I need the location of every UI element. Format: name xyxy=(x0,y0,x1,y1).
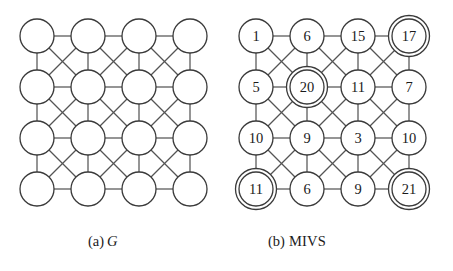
node-weight-label: 5 xyxy=(252,79,259,95)
graph-node[interactable]: 11 xyxy=(341,70,375,104)
caption-row: (a)G (b)MIVS xyxy=(0,220,453,271)
node-circle xyxy=(71,19,105,53)
node-weight-label: 20 xyxy=(300,79,315,95)
node-weight-label: 6 xyxy=(303,28,310,44)
edge-layer xyxy=(37,36,190,189)
graph-node[interactable] xyxy=(173,19,207,53)
graph-node[interactable]: 6 xyxy=(290,172,324,206)
node-weight-label: 21 xyxy=(402,181,417,197)
caption-a-prefix: (a) xyxy=(88,233,104,249)
graph-node[interactable] xyxy=(71,172,105,206)
node-circle xyxy=(173,70,207,104)
graph-node[interactable] xyxy=(20,121,54,155)
graph-node[interactable] xyxy=(122,172,156,206)
node-circle xyxy=(20,19,54,53)
graph-node[interactable] xyxy=(122,70,156,104)
graph-node-selected[interactable]: 17 xyxy=(389,16,430,57)
graph-node[interactable] xyxy=(173,121,207,155)
node-circle xyxy=(71,172,105,206)
node-circle xyxy=(20,121,54,155)
graph-node-selected[interactable]: 11 xyxy=(236,169,277,210)
graph-node[interactable]: 9 xyxy=(290,121,324,155)
graph-node[interactable]: 3 xyxy=(341,121,375,155)
node-weight-label: 7 xyxy=(405,79,412,95)
node-weight-label: 10 xyxy=(249,130,264,146)
panel-graph-mivs: 161517520117109310116921 xyxy=(226,0,453,220)
node-weight-label: 9 xyxy=(303,130,310,146)
graph-node[interactable] xyxy=(71,121,105,155)
caption-panel-a: (a)G xyxy=(88,232,118,250)
graph-node[interactable] xyxy=(122,121,156,155)
graph-node[interactable] xyxy=(71,19,105,53)
graph-node[interactable]: 10 xyxy=(392,121,426,155)
graph-node[interactable] xyxy=(20,19,54,53)
graph-mivs-svg: 161517520117109310116921 xyxy=(226,0,453,220)
caption-b-prefix: (b) xyxy=(268,233,285,249)
node-circle xyxy=(122,70,156,104)
caption-panel-b: (b)MIVS xyxy=(268,232,326,250)
node-circle xyxy=(122,172,156,206)
node-weight-label: 10 xyxy=(402,130,417,146)
panel-graph-g xyxy=(0,0,226,220)
caption-a-label: G xyxy=(104,233,117,249)
node-circle xyxy=(122,121,156,155)
graph-node[interactable] xyxy=(173,70,207,104)
node-circle xyxy=(71,121,105,155)
node-weight-label: 11 xyxy=(351,79,365,95)
graph-node-selected[interactable]: 20 xyxy=(287,67,328,108)
graph-node[interactable]: 6 xyxy=(290,19,324,53)
graph-g-svg xyxy=(0,0,226,220)
graph-node[interactable]: 10 xyxy=(239,121,273,155)
graph-node[interactable]: 1 xyxy=(239,19,273,53)
graph-node[interactable] xyxy=(20,70,54,104)
node-weight-label: 9 xyxy=(354,181,361,197)
graph-node[interactable] xyxy=(173,172,207,206)
graph-node-selected[interactable]: 21 xyxy=(389,169,430,210)
node-circle xyxy=(71,70,105,104)
graph-node[interactable]: 7 xyxy=(392,70,426,104)
figure-container: 161517520117109310116921 (a)G (b)MIVS xyxy=(0,0,453,271)
graph-node[interactable]: 9 xyxy=(341,172,375,206)
graph-node[interactable]: 15 xyxy=(341,19,375,53)
edge-layer xyxy=(256,36,409,189)
graph-node[interactable] xyxy=(20,172,54,206)
node-circle xyxy=(173,19,207,53)
node-circle xyxy=(20,70,54,104)
node-weight-label: 15 xyxy=(351,28,366,44)
node-weight-label: 17 xyxy=(402,28,417,44)
node-weight-label: 1 xyxy=(252,28,259,44)
node-weight-label: 3 xyxy=(354,130,361,146)
graph-node[interactable] xyxy=(71,70,105,104)
graph-node[interactable] xyxy=(122,19,156,53)
node-weight-label: 6 xyxy=(303,181,310,197)
node-circle xyxy=(122,19,156,53)
node-circle xyxy=(173,121,207,155)
node-circle xyxy=(20,172,54,206)
node-weight-label: 11 xyxy=(249,181,263,197)
node-circle xyxy=(173,172,207,206)
caption-b-label: MIVS xyxy=(285,233,326,249)
graph-node[interactable]: 5 xyxy=(239,70,273,104)
